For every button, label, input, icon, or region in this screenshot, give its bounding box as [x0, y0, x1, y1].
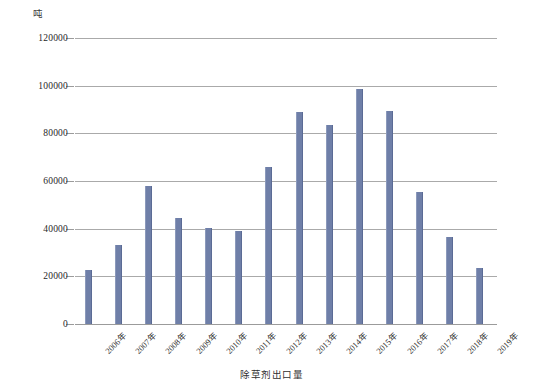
x-axis-tick-label: 2011年 — [252, 329, 279, 356]
y-axis-tick-label: 20000 — [0, 271, 68, 281]
x-axis-tick-label: 2006年 — [102, 329, 129, 356]
x-axis-tick-label: 2007年 — [132, 329, 159, 356]
x-axis-tick-label: 2010年 — [222, 329, 249, 356]
y-axis-tick-text: 60000 — [43, 176, 68, 186]
bar — [85, 270, 92, 324]
y-axis-tick-label: 0 — [0, 319, 68, 329]
y-axis-tick-text: 20000 — [43, 271, 68, 281]
y-axis-tick-text: 80000 — [43, 128, 68, 138]
y-axis-tick-label: 120000 — [0, 33, 68, 43]
y-axis-tick-label: 80000 — [0, 128, 68, 138]
bar — [356, 89, 363, 324]
bar-series — [75, 38, 497, 324]
y-axis-unit-label: 吨 — [33, 6, 43, 20]
x-axis-tick-label: 2016年 — [403, 329, 430, 356]
x-axis-tick-label: 2013年 — [313, 329, 340, 356]
bar — [265, 167, 272, 324]
bar — [175, 218, 182, 324]
x-axis-tick-label: 2015年 — [373, 329, 400, 356]
x-axis-tick-label: 2014年 — [343, 329, 370, 356]
x-axis-tick-label: 2017年 — [433, 329, 460, 356]
y-axis-tick-label: 60000 — [0, 176, 68, 186]
bar — [115, 245, 122, 324]
x-axis-tick-label: 2019年 — [494, 329, 521, 356]
x-axis-tick-label: 2008年 — [162, 329, 189, 356]
y-axis-tick-text: 120000 — [38, 33, 68, 43]
bar-chart: 吨 120000100000800006000040000200000 2006… — [0, 0, 543, 387]
bar — [446, 237, 453, 324]
x-axis-tick-labels: 2006年2007年2008年2009年2010年2011年2012年2013年… — [75, 325, 497, 365]
bar — [296, 112, 303, 324]
chart-legend: 除草剂出口量 — [0, 364, 543, 382]
bar — [386, 111, 393, 324]
x-axis-tick-label: 2018年 — [463, 329, 490, 356]
plot-area — [75, 38, 497, 324]
y-axis-tick-text: 0 — [63, 319, 68, 329]
y-axis-tick-text: 100000 — [38, 81, 68, 91]
bar — [205, 228, 212, 324]
y-axis-tick-label: 100000 — [0, 81, 68, 91]
bar — [476, 268, 483, 324]
bar — [235, 231, 242, 324]
x-axis-tick-label: 2009年 — [192, 329, 219, 356]
legend-label: 除草剂出口量 — [240, 367, 303, 381]
bar — [145, 186, 152, 324]
y-axis-tick-label: 40000 — [0, 224, 68, 234]
y-axis-tick-text: 40000 — [43, 224, 68, 234]
bar — [416, 192, 423, 324]
x-axis-tick-label: 2012年 — [283, 329, 310, 356]
bar — [326, 125, 333, 324]
